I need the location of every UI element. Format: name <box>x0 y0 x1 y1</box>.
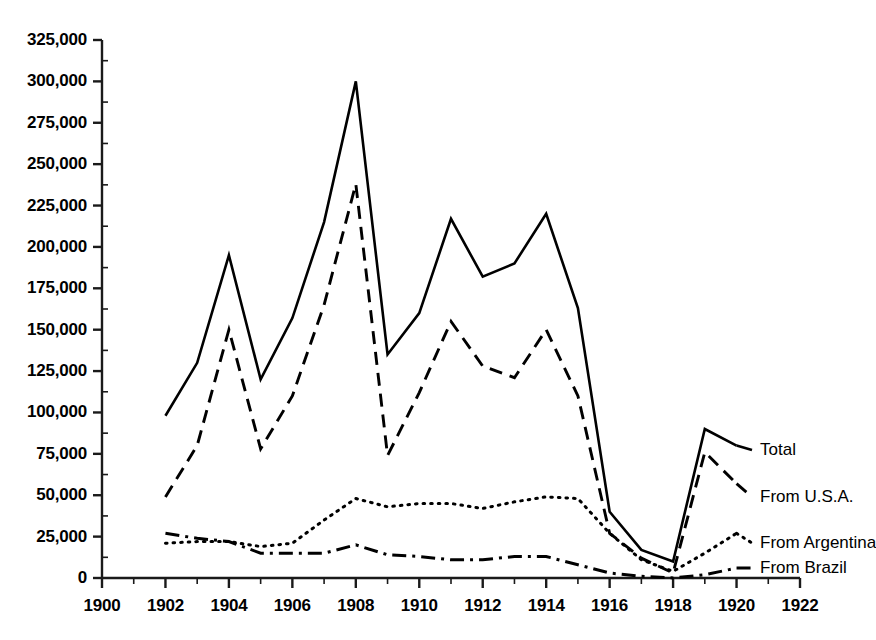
y-axis-tick-label: 300,000 <box>0 71 87 91</box>
y-axis-tick-label: 50,000 <box>0 485 87 505</box>
series-label-from-brazil: From Brazil <box>760 558 847 578</box>
series-label-total: Total <box>760 440 796 460</box>
x-axis-tick-label: 1902 <box>147 596 184 616</box>
series-leader-line <box>737 484 752 497</box>
y-axis-tick-label: 150,000 <box>0 320 87 340</box>
y-axis-tick-label: 0 <box>0 568 87 588</box>
series-leader-line <box>737 446 752 450</box>
y-axis-tick-label: 275,000 <box>0 113 87 133</box>
y-axis-tick-label: 175,000 <box>0 278 87 298</box>
y-axis-tick-label: 325,000 <box>0 30 87 50</box>
x-axis-tick-label: 1918 <box>655 596 692 616</box>
y-axis-tick-label: 75,000 <box>0 444 87 464</box>
y-axis-tick-label: 100,000 <box>0 402 87 422</box>
series-leader-line <box>737 533 752 543</box>
y-axis-tick-label: 125,000 <box>0 361 87 381</box>
series-label-from-u-s-a: From U.S.A. <box>760 487 854 507</box>
x-axis-tick-label: 1914 <box>528 596 565 616</box>
x-axis-tick-label: 1916 <box>591 596 628 616</box>
x-axis-tick-label: 1910 <box>401 596 438 616</box>
x-axis-tick-label: 1906 <box>274 596 311 616</box>
y-axis-tick-label: 25,000 <box>0 527 87 547</box>
x-axis-tick-label: 1920 <box>718 596 755 616</box>
x-axis-tick-label: 1900 <box>83 596 120 616</box>
series-label-from-argentina: From Argentina <box>760 533 876 553</box>
series-line-from-u-s-a <box>165 184 736 573</box>
x-axis-tick-label: 1904 <box>210 596 247 616</box>
y-axis-tick-label: 225,000 <box>0 196 87 216</box>
x-axis-tick-label: 1908 <box>337 596 374 616</box>
x-axis-tick-label: 1922 <box>781 596 818 616</box>
y-axis-tick-label: 200,000 <box>0 237 87 257</box>
y-axis-tick-label: 250,000 <box>0 154 87 174</box>
x-axis-tick-label: 1912 <box>464 596 501 616</box>
series-line-from-brazil <box>165 533 736 578</box>
